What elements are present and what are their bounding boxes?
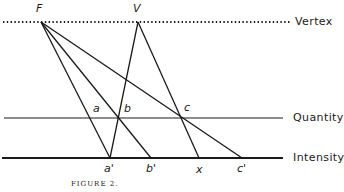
line-F-c-prime [41,22,242,158]
figure-caption: FIGURE 2. [71,181,118,188]
vertex-label: Vertex [295,16,333,27]
point-label-a-prime: a' [104,163,114,174]
point-label-a: a [93,103,100,114]
quantity-label: Quantity [293,112,344,123]
point-label-b-prime: b' [146,163,156,174]
line-F-b-prime [41,22,151,158]
line-F-a-prime [41,22,110,158]
point-label-c-prime: c' [237,163,246,174]
intensity-label: Intensity [293,152,344,163]
point-label-F: F [36,3,42,14]
point-label-b: b [124,103,131,114]
line-V-x [138,22,199,158]
point-label-x: x [196,164,203,175]
point-label-V: V [133,3,141,14]
point-label-c: c [184,102,190,113]
